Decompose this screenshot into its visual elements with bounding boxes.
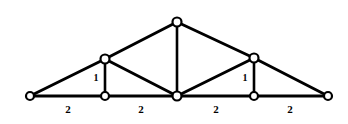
truss-joint-upper-right <box>250 54 259 63</box>
truss-member-top-chord-m8 <box>254 58 328 96</box>
truss-diagram-figure: 222211 <box>0 0 348 124</box>
truss-svg-canvas: 222211 <box>0 0 348 124</box>
truss-joint-upper-left <box>101 55 110 64</box>
truss-member-top-chord-m6 <box>105 22 177 59</box>
truss-joint-apex <box>173 18 182 27</box>
truss-joint-left-support <box>26 92 34 100</box>
truss-joint-bottom-center <box>173 92 182 101</box>
truss-members-group <box>30 22 328 96</box>
height-dimension-label-left-post: 1 <box>94 72 99 83</box>
truss-joint-bottom-left <box>101 92 109 100</box>
span-dimension-label-bay-3: 2 <box>213 103 219 115</box>
span-dimension-label-bay-2: 2 <box>138 103 144 115</box>
truss-joint-right-support <box>324 92 332 100</box>
truss-member-diagonal-web-m12 <box>105 59 177 96</box>
height-dimension-label-right-post: 1 <box>243 72 248 83</box>
truss-joints-group <box>26 18 332 101</box>
span-dimension-label-bay-4: 2 <box>287 103 293 115</box>
truss-joint-bottom-right <box>250 92 258 100</box>
truss-member-top-chord-m7 <box>177 22 254 58</box>
span-dimension-label-bay-1: 2 <box>65 103 71 115</box>
